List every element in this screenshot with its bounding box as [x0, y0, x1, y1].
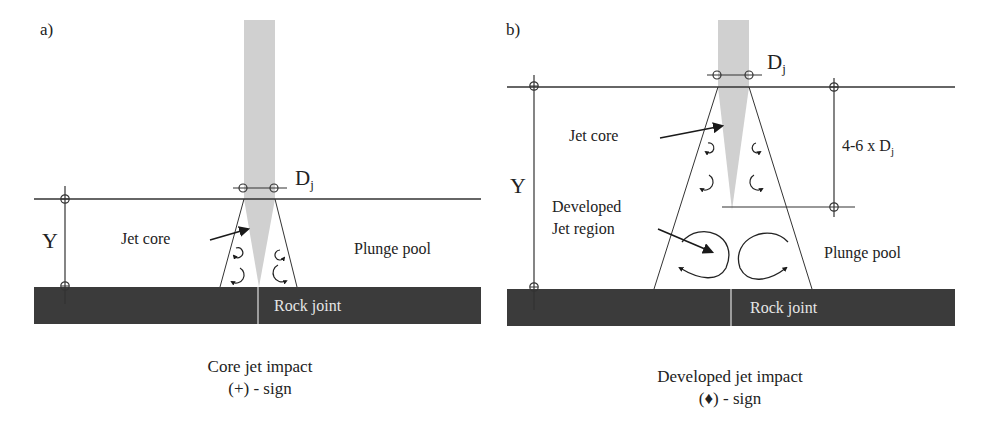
- eddy-icon: [232, 268, 244, 283]
- panel-a-rock-joint-label: Rock joint: [274, 297, 341, 315]
- large-eddy-icon: [738, 233, 788, 279]
- jet-cone-right: [749, 87, 812, 289]
- eddy-icon: [234, 248, 243, 258]
- panel-b-diagram: [507, 20, 955, 326]
- panel-b-plunge-pool-label: Plunge pool: [824, 244, 901, 262]
- panel-a-diagram: [34, 20, 481, 324]
- panel-a-jet-core-label: Jet core: [121, 230, 170, 248]
- eddy-icon: [273, 265, 286, 282]
- panel-b-caption: Developed jet impact (♦) - sign: [610, 366, 850, 410]
- panel-a-caption-title: Core jet impact: [150, 356, 370, 378]
- jet-column: [718, 20, 749, 88]
- eddy-icon: [275, 250, 284, 260]
- jet-cone-left: [654, 87, 718, 289]
- jet-cone-right: [275, 199, 297, 287]
- panel-b-tag: b): [506, 20, 520, 40]
- jet-core-arrow: [660, 126, 722, 138]
- jet-core-arrow: [210, 229, 248, 240]
- panel-b-core-length-label: 4-6 x Dj: [842, 137, 894, 157]
- eddy-icon: [750, 175, 762, 190]
- panel-a-y-label: Y: [42, 228, 58, 254]
- eddy-icon: [752, 143, 760, 153]
- jet-core-wedge: [718, 87, 749, 210]
- developed-region-arrow: [658, 229, 712, 252]
- panel-b-jet-core-label: Jet core: [569, 127, 618, 145]
- panel-a-plunge-pool-label: Plunge pool: [354, 240, 431, 258]
- panel-b-developed-region-label: Developed Jet region: [552, 196, 621, 240]
- panel-b-caption-sign: (♦) - sign: [610, 388, 850, 410]
- eddy-icon: [701, 175, 713, 190]
- panel-b-caption-title: Developed jet impact: [610, 366, 850, 388]
- jet-core-wedge: [244, 199, 275, 287]
- jet-column: [244, 20, 275, 199]
- panel-a-tag: a): [40, 20, 53, 40]
- panel-a-dj-label: Dj: [295, 166, 314, 193]
- jet-cone-left: [220, 199, 244, 287]
- eddy-icon: [706, 143, 714, 153]
- panel-b-rock-joint-label: Rock joint: [750, 299, 817, 317]
- panel-a-caption-sign: (+) - sign: [150, 378, 370, 400]
- panel-b-y-label: Y: [510, 173, 526, 199]
- panel-a-caption: Core jet impact (+) - sign: [150, 356, 370, 400]
- panel-b-dj-label: Dj: [767, 50, 786, 77]
- large-eddy-icon: [680, 232, 729, 278]
